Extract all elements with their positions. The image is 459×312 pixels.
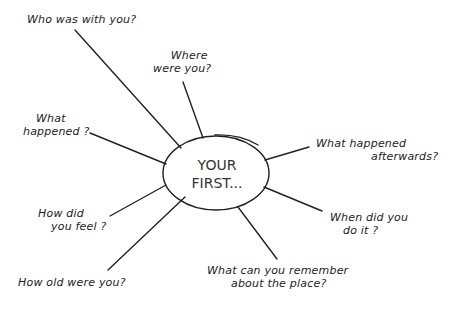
spider-diagram: YOUR FIRST... Who was with you? Where we… bbox=[0, 0, 459, 312]
question-when: When did you do it ? bbox=[330, 211, 408, 237]
question-feel: How did you feel ? bbox=[38, 207, 107, 233]
question-what-happened-line2: happened ? bbox=[23, 125, 90, 138]
question-afterwards-line2: afterwards? bbox=[316, 150, 438, 163]
question-where-line1: Where bbox=[153, 49, 211, 62]
question-age-text: How old were you? bbox=[18, 276, 126, 289]
connector-age bbox=[108, 197, 185, 270]
question-place: What can you remember about the place? bbox=[207, 264, 348, 290]
connector-place bbox=[238, 207, 277, 259]
question-feel-line1: How did bbox=[38, 207, 107, 220]
connector-when bbox=[264, 187, 322, 211]
question-who-text: Who was with you? bbox=[27, 13, 136, 26]
question-where: Where were you? bbox=[153, 49, 211, 75]
question-afterwards: What happened afterwards? bbox=[316, 137, 438, 163]
connector-who bbox=[75, 30, 181, 148]
question-when-line1: When did you bbox=[330, 211, 408, 224]
connector-where bbox=[183, 82, 203, 138]
connector-what-happened bbox=[90, 133, 166, 164]
question-what-happened-line1: What bbox=[23, 112, 90, 125]
question-age: How old were you? bbox=[18, 276, 126, 289]
question-where-line2: were you? bbox=[153, 62, 211, 75]
question-who: Who was with you? bbox=[27, 13, 136, 26]
question-place-line1: What can you remember bbox=[207, 264, 348, 277]
question-what-happened: What happened ? bbox=[23, 112, 90, 138]
connector-afterwards bbox=[265, 147, 309, 160]
connector-feel bbox=[110, 185, 166, 216]
center-label-line1: YOUR bbox=[184, 156, 250, 174]
center-label: YOUR FIRST... bbox=[184, 156, 250, 192]
question-place-line2: about the place? bbox=[207, 277, 348, 290]
question-afterwards-line1: What happened bbox=[316, 137, 438, 150]
question-feel-line2: you feel ? bbox=[38, 220, 107, 233]
question-when-line2: do it ? bbox=[330, 224, 408, 237]
center-label-line2: FIRST... bbox=[184, 174, 250, 192]
